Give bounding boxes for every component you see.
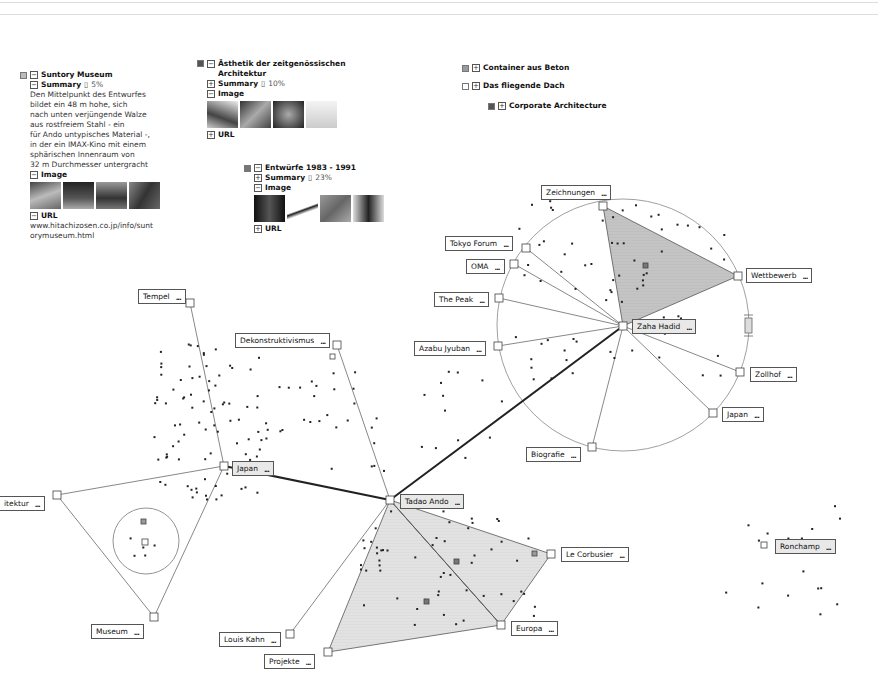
node-europa[interactable]: Europa... xyxy=(511,621,558,636)
thumbnail[interactable] xyxy=(63,182,94,209)
more-icon[interactable]: ... xyxy=(754,410,759,423)
more-icon[interactable]: ... xyxy=(503,239,508,252)
more-icon[interactable]: ... xyxy=(495,262,500,275)
summary-label: Summary xyxy=(218,79,258,89)
expand-toggle-icon[interactable]: + xyxy=(207,131,215,139)
more-icon[interactable]: ... xyxy=(264,464,269,477)
more-icon[interactable]: ... xyxy=(455,497,460,510)
node-label: Biografie xyxy=(531,448,565,461)
expand-toggle-icon[interactable]: + xyxy=(472,64,480,72)
node-azabu-jyuban[interactable]: Azabu Jyuban... xyxy=(414,341,486,356)
node-louis-kahn[interactable]: Louis Kahn... xyxy=(219,632,281,647)
more-icon[interactable]: ... xyxy=(306,657,311,670)
collapsed-item-container-aus-beton[interactable]: + Container aus Beton xyxy=(462,63,569,73)
node-projekte[interactable]: Projekte... xyxy=(264,654,315,669)
collapsed-item-corporate-architecture[interactable]: + Corporate Architecture xyxy=(488,101,607,111)
outline-suntory-museum: − Suntory Museum − Summary ▯ 5% Den Mitt… xyxy=(20,70,160,241)
node-zeichnungen[interactable]: Zeichnungen... xyxy=(541,185,611,200)
summary-label: Summary xyxy=(265,173,305,183)
collapsed-item-das-fliegende-dach[interactable]: + Das fliegende Dach xyxy=(462,81,565,91)
expand-toggle-icon[interactable]: + xyxy=(472,82,480,90)
thumbnail[interactable] xyxy=(306,101,337,128)
thumbnail[interactable] xyxy=(287,195,318,222)
node-dekonstruktivismus[interactable]: Dekonstruktivismus... xyxy=(235,333,330,348)
summary-percent: 5% xyxy=(91,80,103,90)
node-le-corbusier[interactable]: Le Corbusier... xyxy=(561,547,629,562)
collapse-toggle-icon[interactable]: − xyxy=(30,212,38,220)
item-label: Das fliegende Dach xyxy=(483,81,565,91)
outline-title: Entwürfe 1983 - 1991 xyxy=(265,163,356,173)
node-label: Zollhof xyxy=(755,368,781,381)
collapse-toggle-icon[interactable]: − xyxy=(30,71,38,79)
thumbnail[interactable] xyxy=(273,101,304,128)
more-icon[interactable]: ... xyxy=(802,271,807,284)
more-icon[interactable]: ... xyxy=(571,450,576,463)
more-icon[interactable]: ... xyxy=(686,322,691,335)
node-label: Tokyo Forum xyxy=(450,237,497,250)
more-icon[interactable]: ... xyxy=(479,295,484,308)
image-label: Image xyxy=(41,170,67,180)
node-tokyo-forum[interactable]: Tokyo Forum... xyxy=(445,236,513,251)
url-label: URL xyxy=(218,130,235,140)
node-wettbewerb[interactable]: Wettbewerb... xyxy=(746,268,812,283)
node-label: Zaha Hadid xyxy=(637,320,680,333)
thumbnail[interactable] xyxy=(254,195,285,222)
expand-toggle-icon[interactable]: + xyxy=(207,80,215,88)
collapse-toggle-icon[interactable]: − xyxy=(207,60,215,68)
thumbnail[interactable] xyxy=(320,195,351,222)
color-swatch xyxy=(462,83,469,90)
collapse-toggle-icon[interactable]: − xyxy=(30,171,38,179)
node-label: Projekte xyxy=(269,655,300,668)
collapse-toggle-icon[interactable]: − xyxy=(30,81,38,89)
thumbnail[interactable] xyxy=(129,182,160,209)
more-icon[interactable]: ... xyxy=(548,624,553,637)
thumbnail[interactable] xyxy=(207,101,238,128)
node-ronchamp[interactable]: Ronchamp... xyxy=(775,539,836,554)
color-swatch xyxy=(462,65,469,72)
more-icon[interactable]: ... xyxy=(787,370,792,383)
node-zollhof[interactable]: Zollhof... xyxy=(750,367,797,382)
more-icon[interactable]: ... xyxy=(476,344,481,357)
node-zaha-hadid[interactable]: Zaha Hadid... xyxy=(632,319,696,334)
url-link[interactable]: www.hitachizosen.co.jp/info/sunt orymuse… xyxy=(30,221,160,241)
node-japan-left[interactable]: Japan... xyxy=(232,461,274,476)
more-icon[interactable]: ... xyxy=(134,627,139,640)
node-oma[interactable]: OMA... xyxy=(466,259,505,274)
more-icon[interactable]: ... xyxy=(619,550,624,563)
expand-toggle-icon[interactable]: + xyxy=(254,174,262,182)
more-icon[interactable]: ... xyxy=(176,292,181,305)
more-icon[interactable]: ... xyxy=(601,188,606,201)
summary-percent: 10% xyxy=(268,79,285,89)
outline-title: Ästhetik der zeitgenössischen Architektu… xyxy=(218,59,358,79)
document-icon: ▯ xyxy=(84,80,88,90)
collapse-toggle-icon[interactable]: − xyxy=(207,90,215,98)
thumbnail[interactable] xyxy=(353,195,384,222)
node-label: Zeichnungen xyxy=(546,186,595,199)
thumbnail[interactable] xyxy=(240,101,271,128)
node-museum[interactable]: Museum... xyxy=(91,624,144,639)
thumbnail[interactable] xyxy=(30,182,61,209)
node-architektur[interactable]: itektur... xyxy=(0,496,45,511)
more-icon[interactable]: ... xyxy=(271,635,276,648)
color-swatch xyxy=(20,72,27,79)
node-japan-right[interactable]: Japan... xyxy=(722,407,764,422)
expand-toggle-icon[interactable]: + xyxy=(254,225,262,233)
collapse-toggle-icon[interactable]: − xyxy=(254,164,262,172)
more-icon[interactable]: ... xyxy=(320,336,325,349)
collapse-toggle-icon[interactable]: − xyxy=(254,184,262,192)
thumbnail[interactable] xyxy=(96,182,127,209)
document-icon: ▯ xyxy=(261,79,265,89)
color-swatch xyxy=(244,165,251,172)
node-label: Europa xyxy=(516,622,542,635)
more-icon[interactable]: ... xyxy=(826,542,831,555)
node-the-peak[interactable]: The Peak... xyxy=(434,292,489,307)
expand-toggle-icon[interactable]: + xyxy=(498,102,506,110)
node-tempel[interactable]: Tempel... xyxy=(138,289,186,304)
color-swatch xyxy=(197,60,204,67)
node-biografie[interactable]: Biografie... xyxy=(526,447,581,462)
outline-aesthetik: − Ästhetik der zeitgenössischen Architek… xyxy=(197,59,358,140)
summary-percent: 23% xyxy=(315,173,332,183)
more-icon[interactable]: ... xyxy=(35,499,40,512)
node-tadao-ando[interactable]: Tadao Ando... xyxy=(400,494,464,509)
image-thumbnails xyxy=(254,195,384,222)
